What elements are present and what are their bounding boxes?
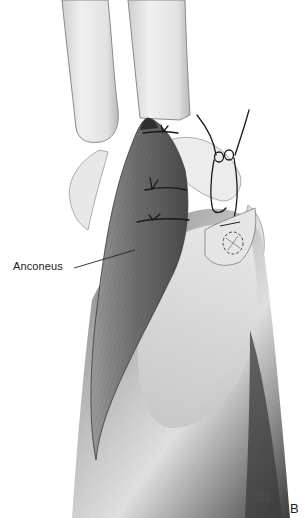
anconeus-label: Anconeus <box>13 260 63 272</box>
ulna-bone <box>128 0 190 120</box>
copyright-credit: MAYO ©1998 <box>256 492 269 502</box>
credit-line-2: ©1998 <box>256 497 269 502</box>
elbow-anatomy-drawing <box>0 0 305 518</box>
anatomical-illustration: Anconeus MAYO ©1998 B <box>0 0 305 518</box>
panel-letter: B <box>290 501 299 516</box>
radius-bone <box>62 0 118 230</box>
